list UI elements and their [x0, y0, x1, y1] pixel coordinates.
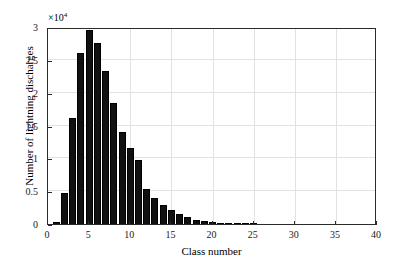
x-tick-label: 40 [361, 229, 391, 240]
bar [176, 214, 183, 224]
bar [77, 53, 84, 224]
bar [234, 223, 241, 224]
y-tick-label: 2.5 [0, 56, 38, 66]
x-tick-label: 25 [238, 229, 268, 240]
plot-area [47, 28, 376, 225]
x-tick-label: 15 [155, 229, 185, 240]
bar [127, 148, 134, 224]
bar [102, 71, 109, 224]
y-axis-multiplier-exponent: 4 [64, 11, 68, 19]
y-tick-label: 0.5 [0, 187, 38, 197]
y-tick-mark [48, 127, 52, 128]
x-tick-mark [335, 221, 336, 225]
x-tick-label: 0 [32, 229, 62, 240]
bar [193, 220, 200, 224]
y-tick-mark [48, 94, 52, 95]
bar [201, 221, 208, 224]
x-tick-mark [129, 221, 130, 225]
y-axis-multiplier-prefix: ×10 [48, 12, 64, 23]
bar [86, 30, 93, 224]
bar [151, 198, 158, 224]
y-tick-label: 1 [0, 154, 38, 164]
y-tick-label: 2 [0, 89, 38, 99]
bar [143, 189, 150, 224]
bar [61, 193, 68, 224]
x-tick-mark [253, 221, 254, 225]
y-tick-mark [48, 192, 52, 193]
y-tick-label: 0 [0, 220, 38, 230]
bar [119, 132, 126, 224]
y-axis-label: Number of lightning discharges [23, 21, 35, 211]
bar [53, 222, 60, 224]
x-tick-label: 35 [320, 229, 350, 240]
bar [184, 217, 191, 224]
x-tick-mark [376, 221, 377, 225]
y-tick-mark [48, 61, 52, 62]
bar [94, 43, 101, 224]
lightning-discharge-histogram-figure: ×104 Number of lightning discharges Clas… [0, 0, 394, 268]
x-tick-label: 5 [73, 229, 103, 240]
x-tick-label: 30 [279, 229, 309, 240]
y-tick-mark [48, 28, 52, 29]
y-axis-multiplier: ×104 [48, 11, 67, 23]
y-tick-label: 3 [0, 23, 38, 33]
bar [160, 205, 167, 224]
x-tick-mark [212, 221, 213, 225]
x-tick-label: 10 [114, 229, 144, 240]
bar [217, 223, 224, 224]
bar [110, 103, 117, 224]
bar [242, 223, 249, 224]
bar [69, 118, 76, 224]
bar-series [48, 29, 375, 224]
x-axis-label: Class number [47, 245, 376, 257]
x-tick-mark [88, 221, 89, 225]
x-tick-mark [170, 221, 171, 225]
y-tick-mark [48, 225, 52, 226]
x-tick-mark [294, 221, 295, 225]
y-tick-mark [48, 159, 52, 160]
bar [225, 223, 232, 224]
x-tick-label: 20 [197, 229, 227, 240]
y-tick-label: 1.5 [0, 122, 38, 132]
bar [135, 160, 142, 224]
